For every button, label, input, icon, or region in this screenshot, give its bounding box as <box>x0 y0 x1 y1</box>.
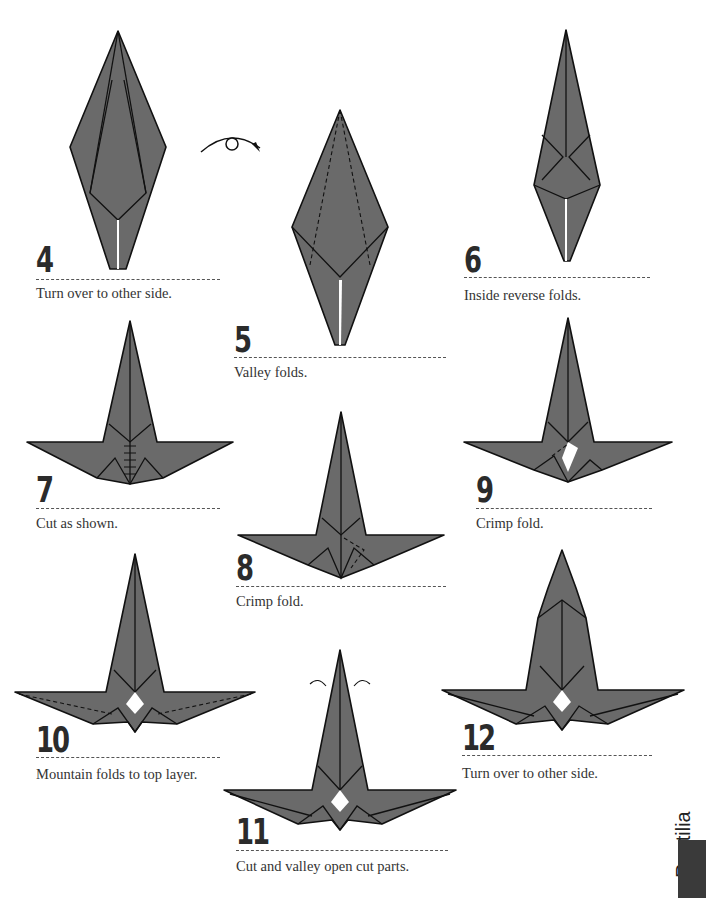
step-number: 12 <box>462 720 494 756</box>
step-number: 11 <box>236 814 268 850</box>
step-caption: Inside reverse folds. <box>464 287 581 304</box>
step-caption: Crimp fold. <box>476 515 544 532</box>
step-8-diagram <box>236 410 448 580</box>
step-number: 10 <box>36 722 68 758</box>
step-number: 6 <box>464 242 480 278</box>
step-divider <box>234 357 446 358</box>
step-6-diagram <box>528 25 608 265</box>
step-divider <box>36 757 220 758</box>
step-caption: Turn over to other side. <box>36 285 172 302</box>
step-divider <box>476 508 652 509</box>
step-9-diagram <box>464 316 676 486</box>
step-number: 7 <box>36 472 52 508</box>
step-caption: Mountain folds to top layer. <box>36 766 198 783</box>
step-5-diagram <box>285 105 395 350</box>
step-divider <box>236 586 446 587</box>
section-tab <box>678 840 706 898</box>
step-caption: Cut as shown. <box>36 515 118 532</box>
step-caption: Turn over to other side. <box>462 765 598 782</box>
step-caption: Valley folds. <box>234 364 307 381</box>
step-divider <box>464 277 650 278</box>
step-divider <box>236 850 448 851</box>
step-divider <box>36 508 220 509</box>
step-divider <box>36 279 220 280</box>
step-4-diagram <box>60 25 180 275</box>
step-caption: Cut and valley open cut parts. <box>236 858 409 875</box>
step-11-diagram <box>222 648 458 828</box>
turn-over-icon <box>198 132 268 162</box>
step-number: 4 <box>36 242 52 278</box>
step-12-diagram <box>448 548 684 728</box>
step-number: 9 <box>476 472 492 508</box>
step-divider <box>462 755 652 756</box>
step-7-diagram <box>25 316 237 486</box>
